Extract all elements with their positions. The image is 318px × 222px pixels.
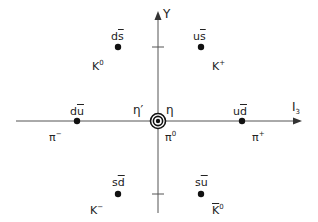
quark-content-us: us (193, 31, 206, 42)
state-dot-us (198, 44, 204, 50)
i3-arrow-icon (293, 118, 302, 125)
weight-diagram (0, 0, 318, 222)
i3-label-sub: 3 (296, 108, 300, 116)
quark-content-ds: ds (111, 31, 124, 42)
state-dot-ud (239, 118, 245, 124)
state-dot-du (74, 118, 80, 124)
i3-axis-label: I3 (292, 101, 300, 113)
state-dot-ds (115, 44, 121, 50)
center-dot (156, 119, 160, 123)
meson-label-kminus: K− (90, 205, 103, 216)
y-axis-label: Y (163, 8, 170, 20)
meson-label-kplus: K+ (212, 61, 225, 72)
quark-content-du: du (70, 106, 84, 117)
quark-content-sd: sd (112, 177, 125, 188)
quark-content-ud: ud (233, 106, 247, 117)
meson-label-piplus: π+ (252, 132, 265, 143)
label-eta: η (166, 104, 174, 116)
y-arrow-icon (155, 11, 162, 20)
label-eta-prime: η′ (133, 104, 143, 116)
meson-label-k0bar: K0 (212, 205, 224, 216)
state-dot-sd (115, 191, 121, 197)
label-pi0: π0 (165, 132, 176, 143)
meson-label-k0: K0 (92, 61, 104, 72)
meson-label-piminus: π− (49, 132, 62, 143)
state-dot-su (198, 191, 204, 197)
quark-content-su: su (195, 177, 208, 188)
